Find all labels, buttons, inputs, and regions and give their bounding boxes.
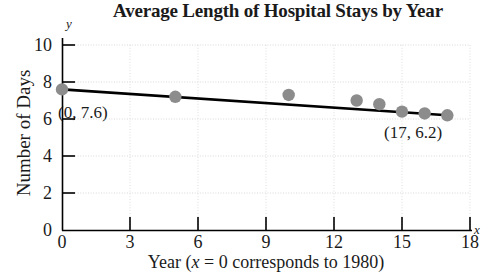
data-point <box>396 105 408 117</box>
data-point <box>350 94 362 106</box>
data-point <box>169 91 181 103</box>
data-point <box>418 107 430 119</box>
data-point <box>373 98 385 110</box>
plot-area <box>0 0 493 279</box>
data-point <box>56 83 68 95</box>
trend-line <box>62 89 447 115</box>
chart-figure: Average Length of Hospital Stays by Year… <box>0 0 493 279</box>
data-point <box>282 89 294 101</box>
data-point <box>441 109 453 121</box>
gridlines <box>62 45 470 230</box>
